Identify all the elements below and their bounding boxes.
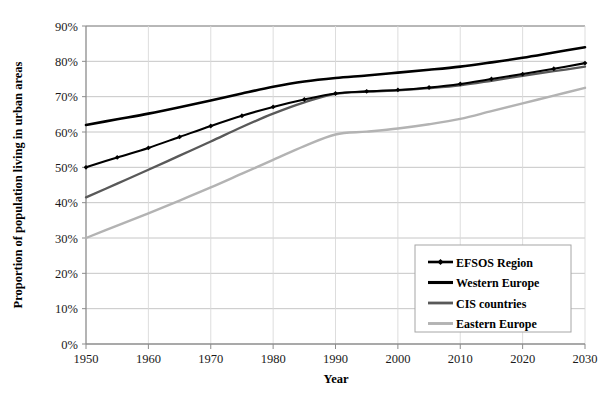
chart-figure: 0%10%20%30%40%50%60%70%80%90% 1950196019… bbox=[0, 0, 612, 403]
y-tick-label: 20% bbox=[55, 267, 78, 281]
line-chart-canvas: 0%10%20%30%40%50%60%70%80%90% 1950196019… bbox=[0, 0, 612, 403]
y-tick-label: 40% bbox=[55, 196, 78, 210]
x-tick-label: 2020 bbox=[510, 352, 535, 366]
y-axis-title: Proportion of population living in urban… bbox=[11, 61, 25, 308]
x-axis-tick-labels: 195019601970198019902000201020202030 bbox=[74, 352, 598, 366]
chart-background bbox=[0, 0, 612, 403]
x-axis-title: Year bbox=[324, 372, 349, 386]
legend-item-label: Western Europe bbox=[456, 276, 540, 290]
legend-item-label: EFSOS Region bbox=[456, 256, 533, 270]
x-tick-label: 1990 bbox=[323, 352, 348, 366]
x-tick-label: 1980 bbox=[261, 352, 286, 366]
y-tick-label: 90% bbox=[55, 20, 78, 34]
y-tick-label: 0% bbox=[61, 338, 78, 352]
y-tick-label: 70% bbox=[55, 90, 78, 104]
y-tick-label: 30% bbox=[55, 232, 78, 246]
x-tick-label: 2030 bbox=[573, 352, 598, 366]
x-tick-label: 2000 bbox=[385, 352, 410, 366]
x-tick-label: 1950 bbox=[74, 352, 99, 366]
y-tick-label: 10% bbox=[55, 302, 78, 316]
x-tick-label: 2010 bbox=[448, 352, 473, 366]
legend-item-label: CIS countries bbox=[456, 297, 527, 311]
y-tick-label: 60% bbox=[55, 126, 78, 140]
x-tick-label: 1970 bbox=[198, 352, 223, 366]
chart-legend: EFSOS RegionWestern EuropeCIS countriesE… bbox=[415, 245, 571, 332]
y-tick-label: 50% bbox=[55, 161, 78, 175]
y-tick-label: 80% bbox=[55, 55, 78, 69]
legend-item-label: Eastern Europe bbox=[456, 317, 537, 331]
x-tick-label: 1960 bbox=[136, 352, 161, 366]
scan-artifact-strip bbox=[0, 0, 612, 9]
